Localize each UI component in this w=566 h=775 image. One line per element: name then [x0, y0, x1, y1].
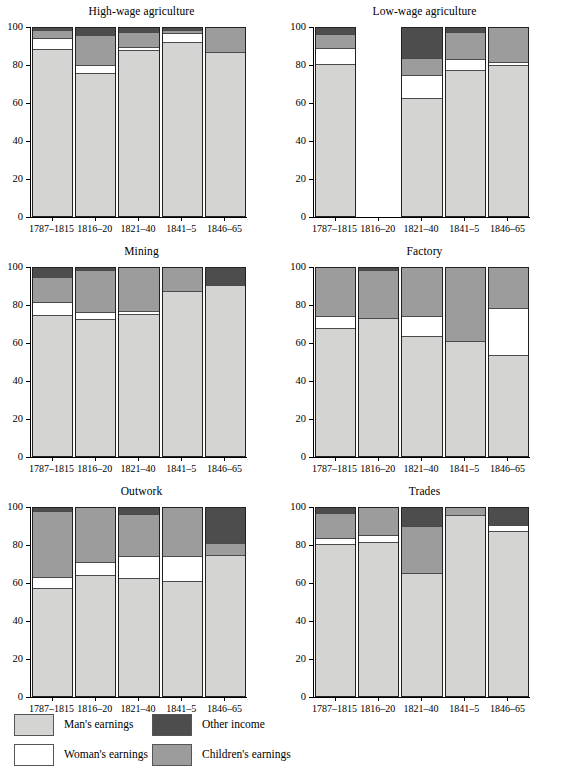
x-axis-tick: [378, 217, 379, 221]
x-axis-tick: [507, 697, 508, 701]
x-axis-tick: [138, 457, 139, 461]
chart-title: Factory: [283, 244, 566, 258]
y-axis-tick-label: 0: [18, 212, 23, 222]
segment-divider: [488, 355, 529, 356]
bar-segment: [118, 578, 159, 697]
chart-panel: Low-wage agriculture1787–18151816–201821…: [283, 0, 566, 240]
bar-segment: [488, 65, 529, 217]
segment-divider: [205, 52, 246, 53]
bar-segment: [75, 562, 116, 575]
x-axis-tick: [464, 217, 465, 221]
chart-panel: Outwork1787–18151816–201821–401841–51846…: [0, 480, 283, 720]
stacked-bar: [75, 507, 116, 697]
segment-divider: [358, 270, 399, 271]
legend-label: Man's earnings: [64, 717, 133, 732]
chart-legend: Man's earningsWoman's earningsOther inco…: [0, 712, 566, 775]
bar-segment: [445, 515, 486, 697]
y-axis-tick: [309, 217, 314, 218]
segment-divider: [75, 65, 116, 66]
legend-swatch: [152, 744, 192, 766]
segment-divider: [445, 32, 486, 33]
bar-group: [314, 27, 530, 217]
segment-divider: [32, 588, 73, 589]
y-axis-tick-label: 80: [13, 540, 24, 550]
bar-group: [31, 267, 247, 457]
x-axis-tick: [421, 457, 422, 461]
bar-segment: [358, 270, 399, 318]
x-axis-tick: [95, 217, 96, 221]
bar-segment: [358, 318, 399, 457]
bar-segment: [445, 27, 486, 32]
bar-segment: [315, 267, 356, 316]
segment-divider: [401, 336, 442, 337]
stacked-bar: [488, 267, 529, 457]
y-axis-tick-label: 0: [301, 692, 306, 702]
x-axis-tick: [378, 697, 379, 701]
x-axis-tick: [224, 457, 225, 461]
bar-segment: [488, 355, 529, 457]
bar-segment: [401, 336, 442, 457]
y-axis-tick-label: 0: [301, 212, 306, 222]
legend-swatch: [14, 714, 54, 736]
bar-segment: [118, 27, 159, 32]
bar-segment: [205, 555, 246, 697]
bar-segment: [315, 328, 356, 457]
stacked-bar: [75, 267, 116, 457]
stacked-bar: [32, 267, 73, 457]
legend-swatch: [14, 744, 54, 766]
x-axis-line: 1787–18151816–201821–401841–51846–65: [30, 457, 247, 458]
y-axis-tick-label: 60: [296, 98, 307, 108]
legend-label: Woman's earnings: [64, 747, 148, 762]
plot-area: 1787–18151816–201821–401841–51846–650204…: [314, 507, 530, 697]
bar-group: [31, 507, 247, 697]
segment-divider: [32, 277, 73, 278]
bar-segment: [315, 34, 356, 48]
x-axis-tick: [507, 457, 508, 461]
x-axis-tick: [52, 217, 53, 221]
panel-grid: High-wage agriculture1787–18151816–20182…: [0, 0, 566, 720]
stacked-bar: [205, 27, 246, 217]
segment-divider: [205, 543, 246, 544]
y-axis-tick-label: 60: [296, 578, 307, 588]
bar-segment: [32, 27, 73, 30]
y-axis-tick-label: 0: [18, 692, 23, 702]
bar-segment: [75, 267, 116, 270]
y-axis-tick-label: 100: [7, 502, 23, 512]
y-axis-tick-label: 60: [13, 338, 24, 348]
bar-segment: [445, 267, 486, 341]
segment-divider: [118, 514, 159, 515]
bar-segment: [205, 543, 246, 555]
segment-divider: [162, 42, 203, 43]
segment-divider: [488, 62, 529, 63]
x-axis-tick: [335, 697, 336, 701]
x-axis-tick: [52, 457, 53, 461]
bar-segment: [118, 50, 159, 217]
bar-segment: [205, 507, 246, 543]
x-axis-tick: [181, 217, 182, 221]
y-axis-tick-label: 80: [296, 540, 307, 550]
segment-divider: [488, 65, 529, 66]
x-axis-tick: [138, 217, 139, 221]
stacked-bar: [488, 27, 529, 217]
bar-segment: [315, 64, 356, 217]
x-axis-tick: [52, 697, 53, 701]
stacked-bar: [445, 27, 486, 217]
bar-segment: [32, 577, 73, 587]
segment-divider: [75, 270, 116, 271]
plot-area: 1787–18151816–201821–401841–51846–650204…: [314, 27, 530, 217]
segment-divider: [401, 573, 442, 574]
stacked-bar: [75, 27, 116, 217]
bar-segment: [315, 48, 356, 64]
segment-divider: [358, 318, 399, 319]
y-axis-tick-label: 40: [13, 616, 24, 626]
x-axis-tick: [181, 457, 182, 461]
segment-divider: [315, 328, 356, 329]
x-axis-tick-label: 1846–65: [480, 463, 535, 474]
segment-divider: [162, 556, 203, 557]
bar-segment: [315, 513, 356, 539]
stacked-bar: [401, 507, 442, 697]
segment-divider: [488, 525, 529, 526]
segment-divider: [162, 33, 203, 34]
segment-divider: [32, 315, 73, 316]
x-axis-tick: [421, 697, 422, 701]
